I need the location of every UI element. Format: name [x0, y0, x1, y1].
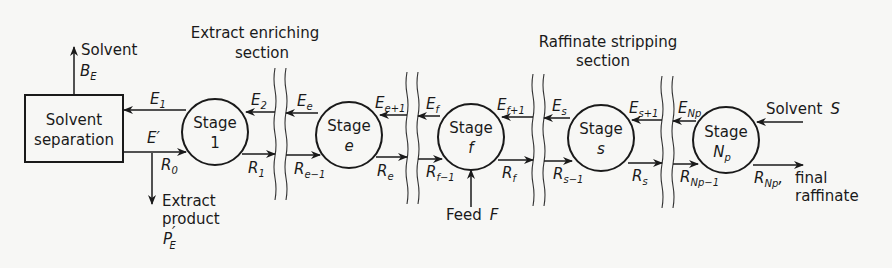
solvent-separation-box: Solvent separation: [25, 95, 123, 162]
label-Re-1: Re−1: [294, 160, 325, 180]
label-Es1: Es+1: [629, 99, 658, 119]
label-R0: R0: [161, 156, 178, 176]
label-Rs-1: Rs−1: [553, 165, 583, 185]
final-raffinate-label-2: raffinate: [795, 187, 859, 205]
svg-text:Stage: Stage: [193, 114, 236, 132]
extraction-cascade-diagram: Solvent separation Solvent BE Extract pr…: [0, 0, 892, 268]
label-E-prime: E′: [147, 129, 160, 147]
label-ENp: ENp: [678, 99, 701, 119]
label-Es: Es: [552, 97, 567, 117]
section-title-enriching-1: Extract enriching: [191, 24, 320, 42]
feed-label: FeedF: [446, 206, 499, 224]
final-raffinate-label-1: final: [795, 169, 827, 187]
svg-text:Stage: Stage: [579, 120, 622, 138]
label-Rf-1: Rf−1: [426, 163, 455, 183]
extract-product-label-1: Extract: [162, 192, 216, 210]
svg-text:Stage: Stage: [327, 117, 370, 135]
label-Ef: Ef: [426, 95, 440, 115]
stage-1: Stage 1: [182, 99, 248, 165]
section-title-stripping-2: section: [576, 52, 630, 70]
label-Rs: Rs: [632, 167, 648, 187]
solvent-out-label: Solvent: [81, 41, 137, 59]
svg-text:Stage: Stage: [704, 123, 747, 141]
label-Re: Re: [377, 162, 394, 182]
label-Ee1: Ee+1: [375, 94, 405, 114]
label-E1: E1: [150, 90, 166, 110]
extract-product-symbol: P′E: [163, 224, 176, 251]
solvent-out-symbol: BE: [80, 62, 97, 82]
label-E2: E2: [251, 91, 267, 111]
label-RNp: RNp,: [754, 169, 783, 189]
separator-label-1: Solvent: [46, 111, 102, 129]
stage-Np: Stage Np: [693, 107, 759, 173]
extract-product-label-2: product: [162, 210, 220, 228]
svg-text:s: s: [597, 140, 605, 158]
label-R1: R1: [248, 159, 265, 179]
section-title-stripping-1: Raffinate stripping: [539, 33, 678, 51]
solvent-in-label: SolventS: [766, 100, 840, 118]
stage-f: Stage f: [438, 104, 504, 170]
stage-e: Stage e: [316, 102, 382, 168]
section-title-enriching-2: section: [235, 44, 289, 62]
label-Ef1: Ef+1: [497, 96, 525, 116]
stage-s: Stage s: [568, 105, 634, 171]
label-Rf: Rf: [502, 164, 517, 184]
svg-text:Stage: Stage: [449, 119, 492, 137]
separator-label-2: separation: [34, 131, 114, 149]
svg-text:1: 1: [210, 134, 220, 152]
label-Ee: Ee: [297, 92, 313, 112]
svg-text:e: e: [344, 137, 353, 155]
